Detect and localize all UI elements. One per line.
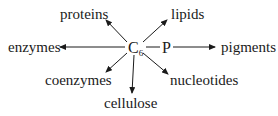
node-enzymes: enzymes <box>8 40 60 55</box>
c6-subscript: 6 <box>139 48 144 58</box>
node-coenzymes: coenzymes <box>45 73 112 88</box>
arrow-to-nucleotides <box>143 53 168 74</box>
arrow-to-coenzymes <box>106 53 127 72</box>
node-cellulose: cellulose <box>104 96 157 111</box>
node-lipids: lipids <box>171 7 204 22</box>
node-c6: C6 <box>128 40 143 61</box>
node-pigments: pigments <box>221 40 276 55</box>
node-nucleotides: nucleotides <box>170 73 238 88</box>
node-proteins: proteins <box>60 7 108 22</box>
arrow-to-proteins <box>106 20 127 42</box>
c6-label: C <box>128 39 139 56</box>
node-p: P <box>162 40 171 55</box>
